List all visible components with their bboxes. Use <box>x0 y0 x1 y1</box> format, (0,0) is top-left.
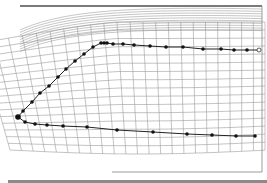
mesh-line <box>0 102 265 110</box>
sample-point <box>148 44 152 48</box>
sample-point <box>47 84 51 88</box>
trajectory <box>15 41 261 138</box>
sample-point <box>245 48 249 52</box>
end-point <box>257 48 261 52</box>
mesh-line <box>0 43 10 150</box>
sample-point <box>38 91 42 95</box>
corner-point <box>15 114 21 120</box>
sample-point <box>164 45 168 49</box>
sample-point <box>64 67 68 71</box>
sample-point <box>201 47 205 51</box>
sample-point <box>105 41 109 45</box>
sample-point <box>73 59 77 63</box>
sample-point <box>30 100 34 104</box>
mesh-line <box>8 142 265 146</box>
sample-point <box>253 134 257 138</box>
sample-point <box>132 43 136 47</box>
sample-point <box>210 133 214 137</box>
mesh-line <box>1 110 265 117</box>
sample-point <box>111 42 115 46</box>
sample-point <box>45 123 49 127</box>
sample-point <box>85 125 89 129</box>
sample-point <box>181 45 185 49</box>
bottom-bar <box>8 180 267 183</box>
sample-point <box>232 48 236 52</box>
wireframe-mesh <box>0 8 265 154</box>
wireframe-canvas <box>0 0 267 183</box>
sample-point <box>115 128 119 132</box>
sample-point <box>82 52 86 56</box>
sample-point <box>21 109 25 113</box>
sample-point <box>185 132 189 136</box>
mesh-line <box>8 38 33 151</box>
mesh-line <box>50 31 68 153</box>
sample-point <box>23 120 27 124</box>
mesh-line <box>230 22 231 152</box>
sample-point <box>151 130 155 134</box>
mesh-line <box>3 118 266 123</box>
sample-point <box>61 124 65 128</box>
mesh-line <box>0 94 265 103</box>
mesh-line <box>4 126 265 130</box>
sample-point <box>91 45 95 49</box>
sample-point <box>219 47 223 51</box>
mesh-figure <box>0 0 267 183</box>
sample-point <box>121 42 125 46</box>
sample-point <box>56 75 60 79</box>
sample-point <box>33 122 37 126</box>
sample-point <box>234 134 238 138</box>
mesh-line <box>64 29 80 153</box>
mesh-line <box>0 70 265 83</box>
